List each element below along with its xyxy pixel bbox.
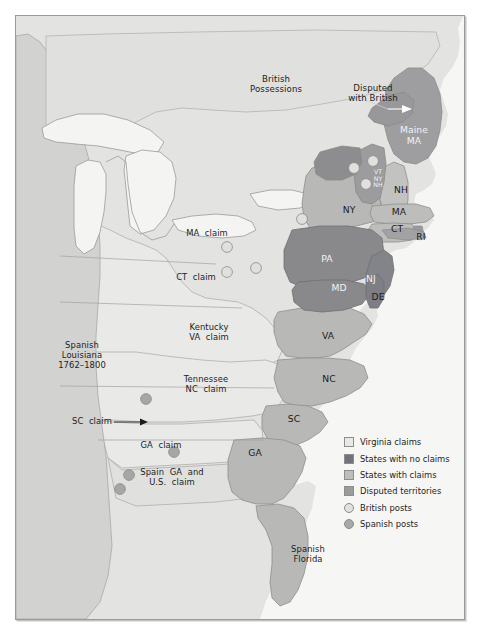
legend-row-states-no-claims: States with no claims [344,450,464,466]
map-frame: British PossessionsDisputed with British… [15,15,465,620]
map-legend: Virginia claimsStates with no claimsStat… [344,434,464,532]
british-post-4 [297,214,308,225]
legend-swatch-virginia-claims [344,437,354,447]
historical-map-figure: British PossessionsDisputed with British… [0,0,482,637]
legend-row-states-with-claims: States with claims [344,467,464,483]
delaware-state [366,274,384,308]
legend-swatch-spanish-posts [344,519,354,529]
map-canvas: British PossessionsDisputed with British… [16,16,464,619]
legend-label-spanish-posts: Spanish posts [360,519,418,529]
legend-label-disputed-territories: Disputed territories [360,486,441,496]
legend-label-virginia-claims: Virginia claims [360,437,421,447]
spanish-post-1 [141,394,152,405]
legend-swatch-states-with-claims [344,470,354,480]
spanish-post-3 [124,470,135,481]
legend-row-disputed-territories: Disputed territories [344,483,464,499]
british-post-6 [368,156,379,167]
spanish-post-2 [169,447,180,458]
legend-swatch-disputed-territories [344,486,354,496]
legend-swatch-british-posts [344,503,354,513]
legend-label-british-posts: British posts [360,503,412,513]
massachusetts-state [370,204,434,224]
legend-label-states-no-claims: States with no claims [360,454,450,464]
british-post-5 [349,163,360,174]
legend-row-british-posts: British posts [344,500,464,516]
legend-label-states-with-claims: States with claims [360,470,437,480]
legend-swatch-states-no-claims [344,454,354,464]
legend-row-virginia-claims: Virginia claims [344,434,464,450]
british-post-3 [251,263,262,274]
british-post-7 [361,179,372,190]
spanish-post-4 [115,484,126,495]
british-post-2 [222,267,233,278]
british-post-1 [222,242,233,253]
legend-row-spanish-posts: Spanish posts [344,516,464,532]
